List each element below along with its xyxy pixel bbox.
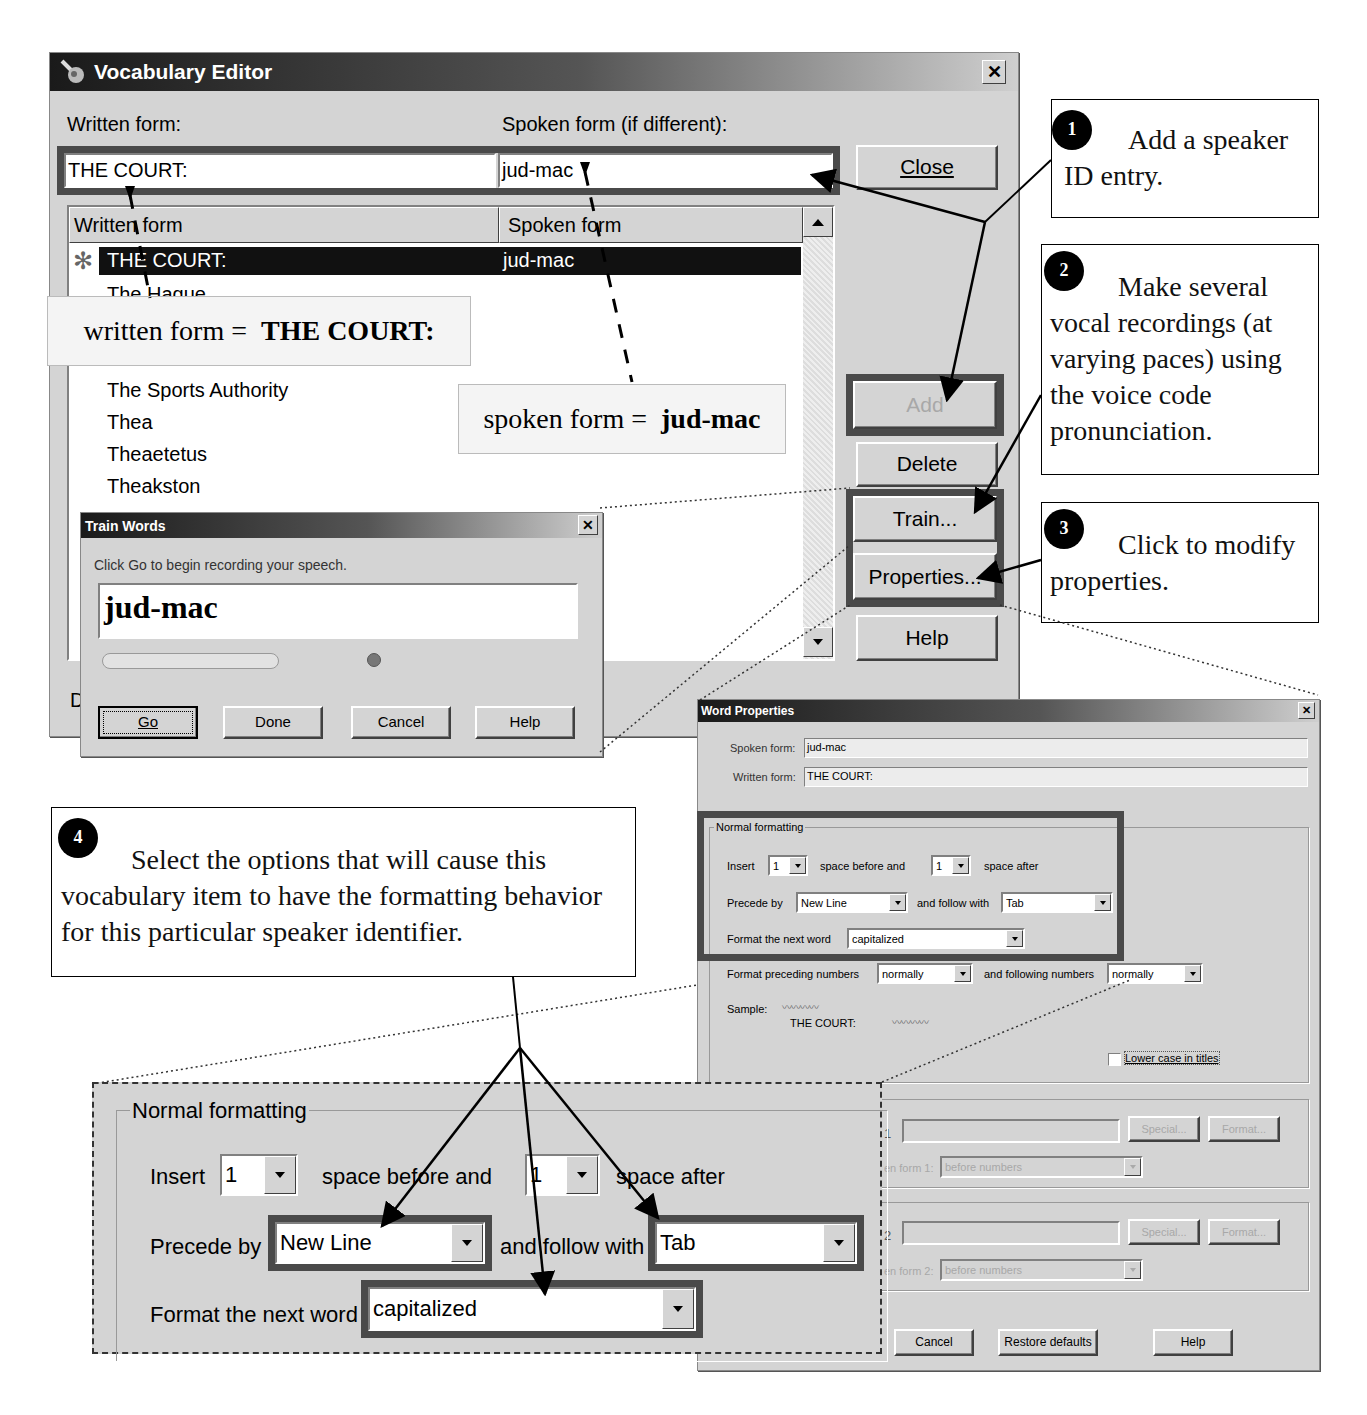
wp-alt2-special-button[interactable]: Special...	[1128, 1219, 1200, 1245]
wp-space-after-select[interactable]: 1	[931, 855, 971, 876]
scroll-down-button[interactable]	[803, 627, 833, 657]
wp-alt-form1-select[interactable]: before numbers	[940, 1156, 1143, 1178]
wp-written-input[interactable]: THE COURT:	[804, 767, 1308, 787]
wp-format-next-label: Format the next word	[727, 933, 831, 945]
wp-written-label: Written form:	[733, 771, 796, 783]
annotation-value: THE COURT:	[261, 315, 435, 347]
wp-alt1-special-button[interactable]: Special...	[1128, 1116, 1200, 1142]
table-row-selected[interactable]: THE COURT: jud-mac	[99, 247, 801, 275]
list-item[interactable]: Theakston	[107, 475, 200, 498]
go-button[interactable]: Go	[98, 706, 198, 739]
wp-alt2-format-button[interactable]: Format...	[1208, 1219, 1280, 1245]
help-button[interactable]: Help	[856, 615, 998, 661]
train-words-titlebar: Train Words ✕	[81, 513, 602, 538]
wp-group-label: Normal formatting	[714, 821, 805, 833]
wp-format-preceding-select[interactable]: normally	[877, 963, 973, 984]
wp-lower-case-checkbox[interactable]	[1108, 1053, 1121, 1066]
wp-alt-form1-label: en form 1:	[884, 1162, 934, 1174]
dropdown-button[interactable]	[952, 857, 969, 874]
properties-button[interactable]: Properties...	[853, 553, 997, 600]
arrow-down-icon	[813, 639, 823, 645]
step-3-badge: 3	[1044, 509, 1084, 549]
wp-restore-defaults-button[interactable]: Restore defaults	[998, 1329, 1098, 1356]
wp-following-numbers-select[interactable]: normally	[1107, 963, 1203, 984]
dropdown-button[interactable]	[954, 965, 971, 982]
dropdown-button[interactable]	[566, 1156, 598, 1194]
recording-level-meter	[102, 653, 279, 669]
word-properties-close-button[interactable]: ✕	[1298, 702, 1315, 719]
annotation-label: spoken form =	[483, 403, 654, 435]
wp-space-after-label: space after	[984, 860, 1038, 872]
wp-alt1-format-button[interactable]: Format...	[1208, 1116, 1280, 1142]
list-header-written[interactable]: Written form	[69, 207, 499, 243]
wp-alt-form2-select[interactable]: before numbers	[940, 1259, 1143, 1281]
cancel-button[interactable]: Cancel	[351, 706, 451, 739]
zoom-format-next-label: Format the next word	[150, 1302, 358, 1328]
chevron-down-icon	[958, 864, 964, 868]
close-button[interactable]: Close	[856, 145, 998, 190]
train-words-close-button[interactable]: ✕	[578, 515, 598, 535]
spoken-form-input[interactable]: jud-mac	[498, 153, 833, 188]
dropdown-button[interactable]	[1006, 930, 1023, 947]
list-scrollbar[interactable]	[803, 207, 833, 659]
written-form-input[interactable]: THE COURT:	[64, 153, 496, 188]
wp-follow-select[interactable]: Tab	[1001, 892, 1113, 913]
train-button[interactable]: Train...	[853, 496, 997, 542]
zoom-space-before-select[interactable]: 1	[220, 1154, 298, 1196]
arrow-up-icon	[812, 219, 824, 226]
wp-alt1-input[interactable]	[902, 1119, 1120, 1143]
zoom-precede-select[interactable]: New Line	[275, 1222, 485, 1264]
callout-3: 3 Click to modify properties.	[1041, 502, 1319, 623]
delete-button[interactable]: Delete	[856, 442, 998, 487]
close-window-button[interactable]: ✕	[982, 60, 1006, 84]
spoken-form-annotation: spoken form = jud-mac	[458, 384, 786, 454]
callout-3-text: Click to modify properties.	[1050, 527, 1308, 599]
format-button-label: Format...	[1222, 1226, 1266, 1238]
wp-lower-case-label[interactable]: Lower case in titles	[1125, 1052, 1219, 1064]
dropdown-button[interactable]	[823, 1224, 855, 1262]
dropdown-button[interactable]	[789, 857, 806, 874]
recording-indicator-dot	[367, 653, 381, 667]
wp-help-button[interactable]: Help	[1153, 1329, 1233, 1356]
dropdown-button[interactable]	[451, 1224, 483, 1262]
wp-space-before-select[interactable]: 1	[768, 855, 808, 876]
add-button[interactable]: Add	[853, 381, 997, 429]
list-item[interactable]: Thea	[107, 411, 153, 434]
wp-space-before-label: space before and	[820, 860, 905, 872]
wp-format-next-select[interactable]: capitalized	[847, 928, 1025, 949]
special-button-label: Special...	[1141, 1226, 1186, 1238]
zoom-format-next-select[interactable]: capitalized	[368, 1287, 696, 1331]
callout-1: 1 Add a speaker ID entry.	[1051, 99, 1319, 218]
wp-restore-label: Restore defaults	[1004, 1335, 1091, 1349]
dropdown-button[interactable]	[889, 894, 906, 911]
dropdown-button[interactable]	[1094, 894, 1111, 911]
train-help-button-label: Help	[510, 713, 541, 730]
spoken-form-label: Spoken form (if different):	[502, 113, 727, 136]
wp-format-next-value: capitalized	[852, 930, 904, 947]
zoom-space-after-select[interactable]: 1	[525, 1154, 600, 1196]
train-help-button[interactable]: Help	[475, 706, 575, 739]
list-item[interactable]: Theaetetus	[107, 443, 207, 466]
wp-spoken-input[interactable]: jud-mac	[804, 738, 1308, 758]
zoom-follow-select[interactable]: Tab	[655, 1222, 857, 1264]
wp-insert-label: Insert	[727, 860, 755, 872]
list-header-spoken[interactable]: Spoken form	[499, 207, 803, 243]
wp-precede-select[interactable]: New Line	[796, 892, 908, 913]
wp-cancel-button[interactable]: Cancel	[894, 1329, 974, 1356]
wp-precede-value: New Line	[801, 894, 847, 911]
zoom-insert-label: Insert	[150, 1164, 205, 1190]
list-cell-written: THE COURT:	[107, 249, 227, 272]
list-item[interactable]: The Sports Authority	[107, 379, 288, 402]
train-words-dialog: Train Words ✕ Click Go to begin recordin…	[80, 512, 603, 757]
done-button[interactable]: Done	[223, 706, 323, 739]
dropdown-button[interactable]	[1184, 965, 1201, 982]
scroll-up-button[interactable]	[803, 207, 833, 237]
dropdown-button[interactable]	[1124, 1261, 1141, 1279]
dropdown-button[interactable]	[662, 1289, 694, 1329]
wp-alt2-input[interactable]	[902, 1221, 1120, 1245]
dropdown-button[interactable]	[1124, 1158, 1141, 1176]
chevron-down-icon	[1130, 1268, 1136, 1272]
dropdown-button[interactable]	[264, 1156, 296, 1194]
zoom-follow-label: and follow with	[500, 1234, 644, 1260]
wp-format-preceding-value: normally	[882, 965, 924, 982]
